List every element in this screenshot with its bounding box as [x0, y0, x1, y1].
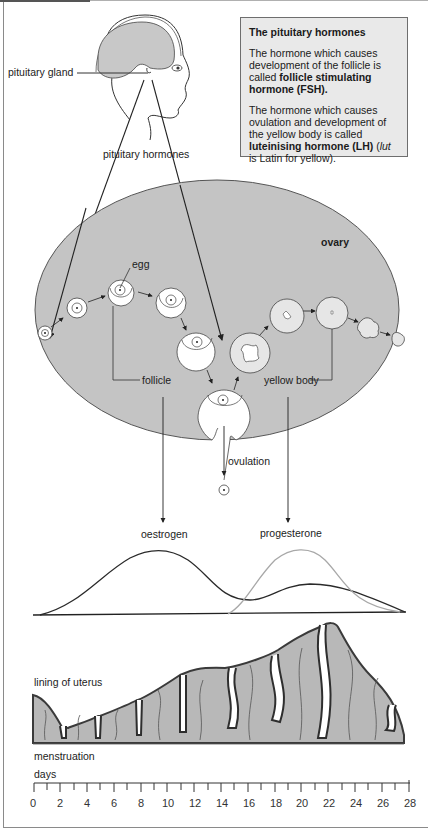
days-axis	[34, 780, 410, 792]
days-tick-labels: 0 2 4 6 8 10 12 14 16 18 20 22 24 26 28	[0, 797, 430, 811]
label-yellow-body: yellow body	[264, 374, 319, 386]
tick-label: 22	[323, 797, 335, 809]
tick-label: 18	[270, 797, 282, 809]
label-days: days	[34, 768, 56, 780]
oestrogen-curve	[40, 551, 405, 615]
lh-description: The hormone which causes ovulation and d…	[249, 104, 399, 164]
tick-label: 6	[111, 797, 117, 809]
head-icon	[96, 15, 189, 140]
tick-label: 14	[216, 797, 228, 809]
label-progesterone: progesterone	[260, 527, 322, 539]
tick-label: 24	[350, 797, 362, 809]
label-oestrogen: oestrogen	[141, 528, 188, 540]
label-ovulation: ovulation	[228, 455, 270, 467]
infobox-title: The pituitary hormones	[249, 26, 399, 38]
tick-label: 20	[296, 797, 308, 809]
tick-label: 16	[243, 797, 255, 809]
tick-label: 8	[138, 797, 144, 809]
label-pituitary-hormones: pituitary hormones	[103, 148, 189, 160]
label-egg: egg	[132, 258, 150, 270]
label-ovary: ovary	[321, 236, 349, 248]
hormone-baseline	[33, 612, 406, 615]
label-pituitary-gland: pituitary gland	[8, 66, 73, 78]
tick-label: 26	[377, 797, 389, 809]
tick-label: 2	[57, 797, 63, 809]
label-follicle: follicle	[142, 374, 171, 386]
progesterone-curve	[228, 550, 400, 614]
tick-label: 4	[84, 797, 90, 809]
tick-label: 0	[30, 797, 36, 809]
label-menstruation: menstruation	[34, 750, 95, 762]
tick-label: 12	[189, 797, 201, 809]
label-lining-of-uterus: lining of uterus	[34, 676, 102, 688]
fsh-description: The hormone which causes development of …	[249, 47, 399, 95]
pituitary-hormones-infobox: The pituitary hormones The hormone which…	[240, 17, 408, 157]
tick-label: 10	[162, 797, 174, 809]
tick-label: 28	[404, 797, 416, 809]
